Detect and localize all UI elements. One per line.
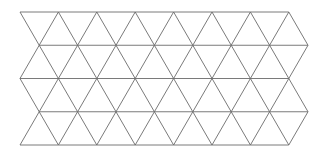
triangular-lattice-figure (0, 0, 318, 156)
figure-background (0, 0, 318, 156)
lattice-canvas (0, 0, 318, 156)
